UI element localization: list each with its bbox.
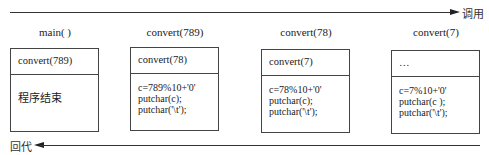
code-line: putchar('\t'); bbox=[138, 104, 218, 115]
frame-call-cell: convert(78) bbox=[131, 48, 218, 74]
code-line: c=7%10+'0' bbox=[399, 85, 479, 96]
frame-title-convert-78: convert(78) bbox=[256, 26, 356, 38]
return-label: 回代 bbox=[10, 138, 32, 154]
frame-body: c=78%10+'0' putchar(c); putchar('\t'); bbox=[262, 76, 349, 117]
frame-call-cell: convert(7) bbox=[262, 50, 349, 76]
code-line: c=789%10+'0' bbox=[138, 82, 218, 93]
code-line: putchar(c); bbox=[138, 93, 218, 104]
frame-call-cell: convert(789) bbox=[11, 49, 98, 75]
code-line: putchar('\t'); bbox=[399, 107, 479, 118]
frame-body: c=7%10+'0' putchar(c ); putchar('\t'); bbox=[392, 77, 479, 118]
frame-title-convert-7: convert(7) bbox=[386, 26, 486, 38]
stack-frame-convert-789: convert(78) c=789%10+'0' putchar(c); put… bbox=[130, 47, 219, 131]
code-line: c=78%10+'0' bbox=[269, 84, 349, 95]
stack-frame-convert-7: … c=7%10+'0' putchar(c ); putchar('\t'); bbox=[391, 50, 480, 134]
arrow-right-icon bbox=[450, 9, 460, 15]
return-arrow-line bbox=[40, 145, 480, 146]
stack-frame-main: convert(789) 程序结束 bbox=[10, 48, 99, 132]
frame-title-main: main( ) bbox=[5, 26, 105, 38]
frame-call-cell: … bbox=[392, 51, 479, 77]
frame-body: c=789%10+'0' putchar(c); putchar('\t'); bbox=[131, 74, 218, 115]
stack-frame-convert-78: convert(7) c=78%10+'0' putchar(c); putch… bbox=[261, 49, 350, 133]
code-line: 程序结束 bbox=[18, 93, 98, 104]
call-label: 调用 bbox=[462, 5, 484, 21]
code-line: putchar(c ); bbox=[399, 96, 479, 107]
frame-body: 程序结束 bbox=[11, 75, 98, 104]
frame-title-convert-789: convert(789) bbox=[125, 26, 225, 38]
code-line: putchar(c); bbox=[269, 95, 349, 106]
code-line: putchar('\t'); bbox=[269, 106, 349, 117]
call-arrow-line bbox=[10, 12, 456, 13]
